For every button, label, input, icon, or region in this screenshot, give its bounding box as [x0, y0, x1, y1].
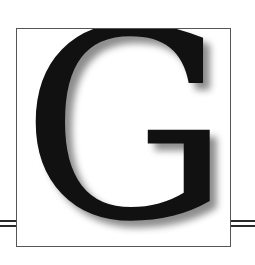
double-rule-right-lower	[231, 225, 255, 227]
double-rule-right-upper	[231, 220, 255, 222]
double-rule-left-upper	[0, 220, 16, 222]
double-rule-left-lower	[0, 225, 16, 227]
drop-cap-frame: G	[16, 28, 231, 247]
drop-cap-letter: G	[17, 28, 230, 247]
